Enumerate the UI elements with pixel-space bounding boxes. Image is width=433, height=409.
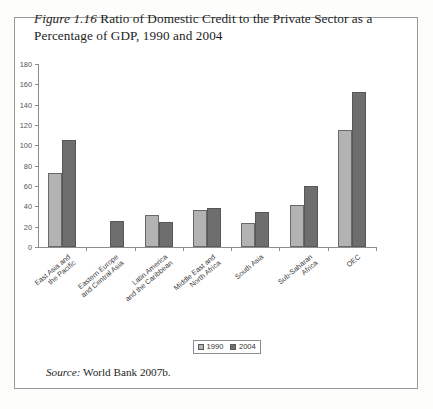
y-tick-label-20: 20: [6, 223, 32, 232]
source-label: Source:: [46, 366, 80, 378]
bar-group: [338, 64, 366, 247]
figure-page: Figure 1.16 Ratio of Domestic Credit to …: [0, 0, 433, 409]
y-tick-mark-180: [35, 64, 38, 65]
x-tick-mark: [328, 247, 329, 251]
bar-1990: [145, 215, 159, 247]
bar-group: [193, 64, 221, 247]
y-tick-label-0: 0: [6, 243, 32, 252]
y-tick-label-100: 100: [6, 141, 32, 150]
bar-1990: [48, 173, 62, 247]
y-tick-label-60: 60: [6, 182, 32, 191]
y-tick-mark-120: [35, 125, 38, 126]
y-tick-mark-20: [35, 227, 38, 228]
bar-group: [145, 64, 173, 247]
bar-1990: [290, 205, 304, 247]
y-tick-label-80: 80: [6, 162, 32, 171]
legend-label-1990: 1990: [207, 342, 224, 351]
y-tick-label-160: 160: [6, 80, 32, 89]
x-tick-mark: [279, 247, 280, 251]
source-text: World Bank 2007b.: [83, 366, 171, 378]
bar-2004: [255, 212, 269, 247]
y-tick-mark-0: [35, 247, 38, 248]
bar-1990: [193, 210, 207, 247]
y-tick-label-40: 40: [6, 202, 32, 211]
y-tick-mark-140: [35, 105, 38, 106]
x-tick-mark: [86, 247, 87, 251]
bar-1990: [338, 130, 352, 247]
chart-plot-area: 020406080100120140160180 East Asia andth…: [38, 64, 376, 247]
x-axis-line: [38, 247, 376, 248]
bar-2004: [159, 222, 173, 247]
source-note: Source: World Bank 2007b.: [46, 366, 171, 378]
legend-swatch-2004: [230, 344, 236, 350]
y-tick-label-120: 120: [6, 121, 32, 130]
bar-2004: [352, 92, 366, 247]
y-tick-mark-100: [35, 145, 38, 146]
x-tick-mark: [183, 247, 184, 251]
bar-group: [96, 64, 124, 247]
x-tick-mark: [376, 247, 377, 251]
bar-group: [48, 64, 76, 247]
figure-number: Figure 1.16: [34, 11, 97, 26]
y-tick-mark-40: [35, 206, 38, 207]
bar-2004: [207, 208, 221, 247]
chart-legend: 1990 2004: [193, 340, 261, 354]
bar-1990: [241, 223, 255, 247]
y-axis-line: [38, 64, 39, 247]
figure-caption: Figure 1.16 Ratio of Domestic Credit to …: [34, 11, 386, 44]
legend-swatch-1990: [198, 344, 204, 350]
bar-2004: [62, 140, 76, 247]
legend-label-2004: 2004: [239, 342, 256, 351]
bar-2004: [110, 221, 124, 247]
bar-2004: [304, 186, 318, 247]
y-tick-mark-60: [35, 186, 38, 187]
bar-group: [290, 64, 318, 247]
y-tick-label-140: 140: [6, 101, 32, 110]
y-tick-mark-80: [35, 166, 38, 167]
x-tick-mark: [135, 247, 136, 251]
y-tick-label-180: 180: [6, 60, 32, 69]
legend-item-1990: 1990: [198, 342, 223, 351]
y-tick-mark-160: [35, 84, 38, 85]
x-tick-mark: [231, 247, 232, 251]
legend-item-2004: 2004: [230, 342, 255, 351]
bar-group: [241, 64, 269, 247]
